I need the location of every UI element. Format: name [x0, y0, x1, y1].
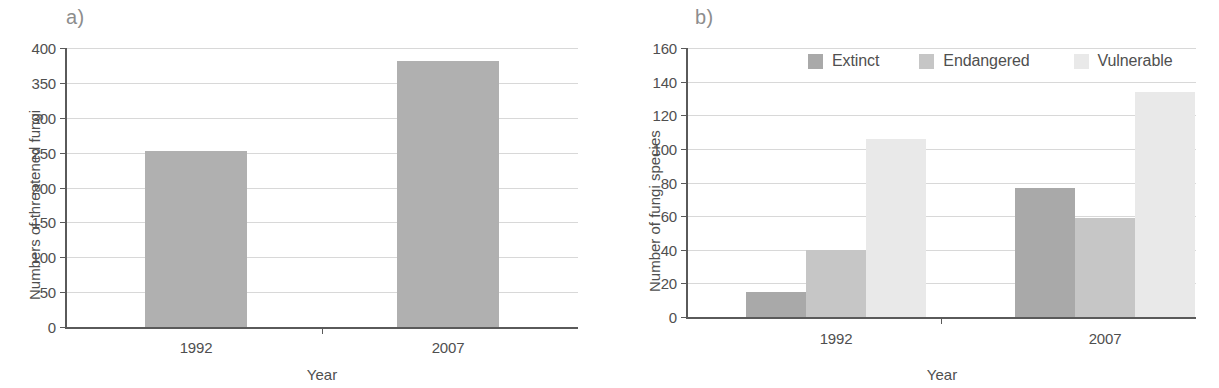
legend-label: Endangered	[943, 52, 1029, 70]
y-tick-label: 40	[630, 241, 677, 258]
panel-a-plot	[67, 48, 578, 327]
bar	[866, 139, 926, 317]
bar	[746, 292, 806, 317]
x-tick-label: 2007	[432, 339, 465, 356]
panel-b-x-axis-tick	[941, 317, 942, 324]
legend-swatch-icon	[808, 54, 823, 69]
bar	[1015, 188, 1075, 317]
bar	[145, 151, 247, 327]
legend-swatch-icon	[919, 54, 934, 69]
panel-a-bars	[67, 48, 578, 327]
panel-b-label: b)	[695, 6, 714, 29]
x-tick-label: 1992	[180, 339, 213, 356]
y-tick-label: 350	[10, 74, 56, 91]
legend-label: Vulnerable	[1098, 52, 1173, 70]
y-tick-label: 20	[630, 275, 677, 292]
y-tick-label: 100	[10, 249, 56, 266]
y-tick-label: 100	[630, 140, 677, 157]
y-tick-label: 300	[10, 109, 56, 126]
y-tick-label: 0	[10, 319, 56, 336]
panel-a-x-axis-tick	[322, 327, 323, 334]
y-tick-label: 60	[630, 208, 677, 225]
panel-a-label: a)	[66, 6, 85, 29]
legend-item-endangered: Endangered	[919, 52, 1029, 70]
x-tick-label: 1992	[820, 330, 853, 347]
panel-a-y-axis	[65, 48, 67, 329]
bar	[397, 61, 499, 327]
y-tick-label: 120	[630, 107, 677, 124]
panel-b-y-axis	[686, 48, 688, 319]
bar	[1135, 92, 1195, 317]
panel-b: b) Number of fungi species 0204060801001…	[610, 0, 1219, 388]
x-tick-label: 2007	[1089, 330, 1122, 347]
panel-a-x-axis-title: Year	[307, 366, 337, 383]
panel-a: a) Numbers of threatened fungi 050100150…	[0, 0, 610, 388]
y-tick-label: 80	[630, 174, 677, 191]
panel-a-y-axis-title: Numbers of threatened fungi	[26, 110, 43, 300]
y-tick-label: 200	[10, 179, 56, 196]
panel-b-plot	[688, 48, 1196, 317]
legend-label: Extinct	[832, 52, 879, 70]
bar	[1075, 218, 1135, 317]
legend-swatch-icon	[1074, 54, 1089, 69]
y-tick-label: 400	[10, 40, 56, 57]
y-tick-label: 50	[10, 284, 56, 301]
legend-item-extinct: Extinct	[808, 52, 879, 70]
bar	[806, 250, 866, 317]
panel-b-legend: ExtinctEndangeredVulnerable	[808, 52, 1172, 70]
y-tick-label: 160	[630, 40, 677, 57]
y-tick-label: 250	[10, 144, 56, 161]
y-tick-label: 140	[630, 73, 677, 90]
panel-b-x-axis-title: Year	[927, 366, 957, 383]
y-tick-label: 0	[630, 309, 677, 326]
y-tick-label: 150	[10, 214, 56, 231]
figure: a) Numbers of threatened fungi 050100150…	[0, 0, 1219, 388]
legend-item-vulnerable: Vulnerable	[1074, 52, 1173, 70]
panel-b-bars	[688, 48, 1196, 317]
